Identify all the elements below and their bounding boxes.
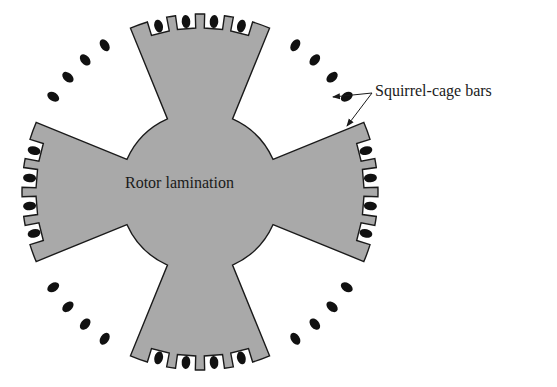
- slot-bar: [153, 351, 164, 366]
- free-bar: [98, 331, 112, 347]
- slot-bar: [27, 145, 42, 156]
- free-bar: [288, 37, 302, 53]
- slot-bar: [181, 15, 191, 29]
- slot-bar: [364, 201, 378, 211]
- rotor-diagram: Rotor lamination Squirrel-cage bars: [0, 0, 557, 387]
- slot-bar: [359, 228, 374, 239]
- slot-bar: [23, 173, 37, 183]
- free-bar: [324, 299, 339, 314]
- rotor-lamination-label: Rotor lamination: [125, 174, 234, 192]
- rotor-lamination: [22, 14, 378, 370]
- free-bar: [98, 37, 112, 53]
- slot-bar: [181, 356, 191, 370]
- slot-bar: [364, 173, 378, 183]
- slot-bar: [236, 351, 247, 366]
- free-bar: [45, 280, 61, 294]
- slot-bar: [209, 356, 219, 370]
- free-bar: [324, 70, 339, 85]
- free-bar: [45, 90, 61, 104]
- slot-bar: [27, 228, 42, 239]
- free-bar: [78, 52, 93, 67]
- free-bar: [339, 90, 355, 104]
- free-bar: [78, 316, 93, 331]
- lamination-outline: [22, 14, 378, 370]
- slot-bar: [236, 19, 247, 34]
- rotor-lamination-figure: [0, 0, 557, 387]
- callout-arrows: [333, 93, 372, 126]
- free-bar: [60, 299, 75, 314]
- slot-bar: [153, 19, 164, 34]
- slot-bar: [359, 145, 374, 156]
- free-bar: [307, 316, 322, 331]
- arrow-to-free-bar: [333, 93, 372, 97]
- squirrel-cage-bars-label: Squirrel-cage bars: [375, 82, 492, 100]
- free-bar: [60, 70, 75, 85]
- free-bar: [288, 331, 302, 347]
- free-bar: [307, 52, 322, 67]
- free-bar: [339, 280, 355, 294]
- slot-bar: [209, 15, 219, 29]
- slot-bar: [23, 201, 37, 211]
